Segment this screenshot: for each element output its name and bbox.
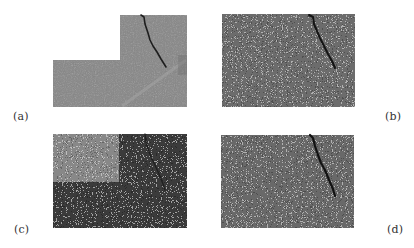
panel-d-label: (d) bbox=[387, 224, 403, 236]
panel-a-image bbox=[53, 15, 187, 107]
figure-panels bbox=[0, 0, 414, 248]
panel-a-label: (a) bbox=[13, 111, 29, 123]
light-block-c bbox=[53, 134, 119, 182]
panel-d-image bbox=[221, 135, 354, 228]
panel-c-image bbox=[53, 134, 187, 228]
figure-grid: (a) (b) (c) (d) bbox=[0, 0, 414, 248]
panel-b-image bbox=[222, 14, 355, 107]
panel-c-label: (c) bbox=[14, 224, 29, 236]
panel-b-label: (b) bbox=[385, 111, 401, 123]
